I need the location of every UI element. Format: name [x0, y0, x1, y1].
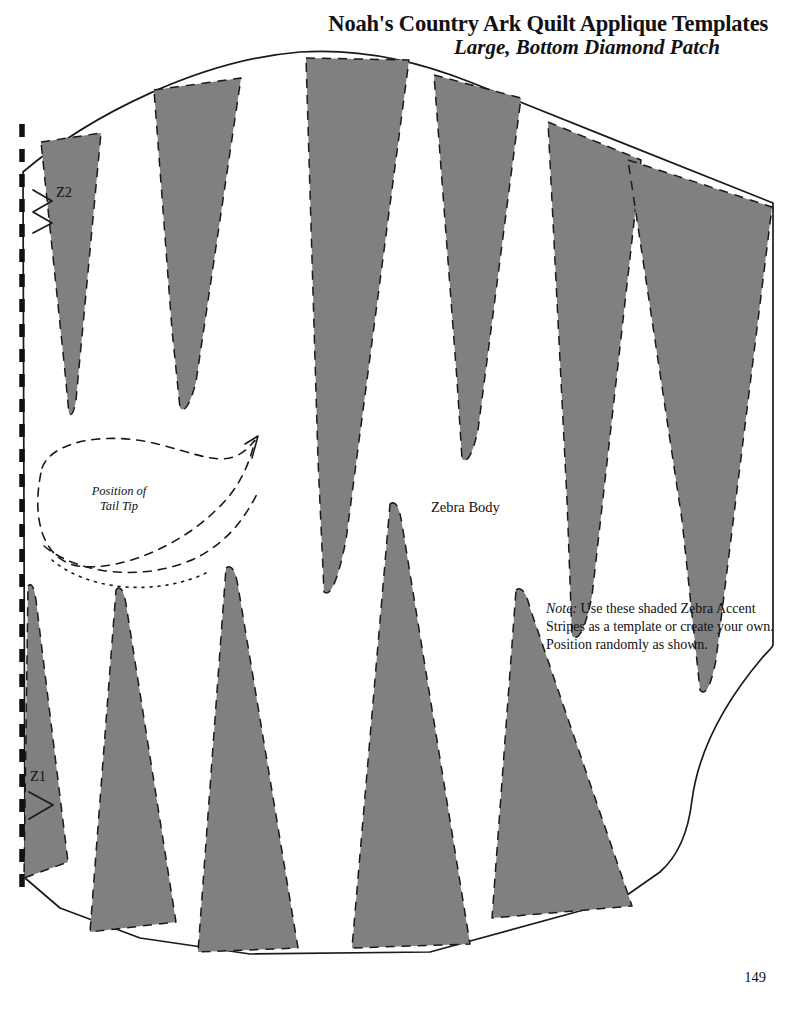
tail-tip-label: Position of Tail Tip — [60, 484, 178, 515]
marker-label-z1: Z1 — [30, 768, 46, 785]
page-subtitle: Large, Bottom Diamond Patch — [298, 36, 768, 60]
page-title: Noah's Country Ark Quilt Applique Templa… — [298, 12, 768, 35]
note-text: Note: Use these shaded Zebra Accent Stri… — [546, 600, 774, 655]
tail-tip-label-line2: Tail Tip — [60, 499, 178, 514]
note-lead: Note: — [546, 601, 577, 616]
page-number: 149 — [744, 969, 766, 986]
piece-label: Zebra Body — [431, 499, 500, 516]
tail-tip-label-line1: Position of — [60, 484, 178, 499]
page-canvas: Noah's Country Ark Quilt Applique Templa… — [0, 0, 790, 1016]
marker-label-z2: Z2 — [56, 184, 72, 201]
page-header: Noah's Country Ark Quilt Applique Templa… — [298, 12, 768, 60]
note-body: Use these shaded Zebra Accent Stripes as… — [546, 601, 774, 652]
